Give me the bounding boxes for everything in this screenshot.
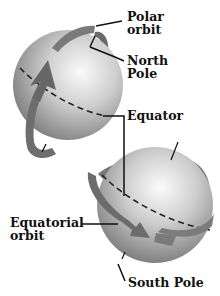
equator-label-text: Equator [127, 108, 183, 123]
south-pole-leader [118, 264, 125, 281]
equator-label: Equator [127, 109, 183, 122]
top-sphere-group [13, 26, 123, 158]
bottom-sphere-group [88, 142, 214, 263]
north-pole-label-line2: Pole [127, 67, 168, 80]
equatorial-orbit-label: Equatorial orbit [10, 216, 84, 242]
north-pole-label: North Pole [127, 54, 168, 80]
diagram-graphic [0, 0, 220, 296]
south-pole-label: South Pole [128, 276, 204, 289]
polar-orbit-leader [96, 21, 122, 26]
south-pole-label-text: South Pole [128, 275, 204, 290]
orbit-diagram: Polar orbit North Pole Equator Equatoria… [0, 0, 220, 296]
polar-orbit-label-line2: orbit [127, 23, 164, 36]
polar-orbit-label: Polar orbit [127, 10, 164, 36]
equatorial-orbit-label-line2: orbit [10, 229, 84, 242]
bottom-sphere [97, 147, 213, 263]
